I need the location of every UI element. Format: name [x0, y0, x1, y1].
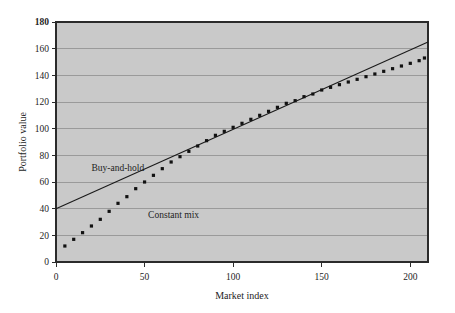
x-axis-tick-label: 150: [315, 272, 330, 282]
data-point-marker: [364, 75, 367, 78]
data-point-marker: [382, 70, 385, 73]
data-point-marker: [72, 238, 75, 241]
x-axis-tick-label: 100: [226, 272, 241, 282]
data-point-marker: [178, 155, 181, 158]
y-axis-tick-label: 140: [35, 71, 50, 81]
data-point-marker: [170, 160, 173, 163]
y-axis-tick-label: 180: [35, 17, 50, 27]
data-point-marker: [134, 187, 137, 190]
y-axis-tick-label: 0: [44, 257, 49, 267]
data-point-marker: [391, 67, 394, 70]
y-axis-tick-label: 120: [35, 97, 50, 107]
y-axis-title: Portfolio value: [17, 112, 28, 172]
data-point-marker: [205, 139, 208, 142]
data-point-marker: [223, 130, 226, 133]
data-point-marker: [347, 80, 350, 83]
data-point-marker: [329, 86, 332, 89]
data-point-marker: [276, 106, 279, 109]
data-point-marker: [90, 224, 93, 227]
data-point-marker: [418, 59, 421, 62]
data-point-marker: [108, 210, 111, 213]
annotation-buy-and-hold: Buy-and-hold: [91, 163, 144, 173]
y-axis-tick-label: 160: [35, 44, 50, 54]
data-point-marker: [125, 195, 128, 198]
x-axis-title: Market index: [215, 290, 269, 301]
data-point-marker: [294, 99, 297, 102]
data-point-marker: [338, 83, 341, 86]
data-point-marker: [409, 62, 412, 65]
data-point-marker: [152, 174, 155, 177]
data-point-marker: [143, 180, 146, 183]
data-point-marker: [400, 64, 403, 67]
data-point-marker: [373, 72, 376, 75]
y-axis-tick-label: 60: [40, 177, 50, 187]
data-point-marker: [81, 231, 84, 234]
data-point-marker: [187, 150, 190, 153]
data-point-marker: [161, 167, 164, 170]
y-axis-tick-label: 40: [40, 204, 50, 214]
data-point-marker: [320, 88, 323, 91]
data-point-marker: [214, 134, 217, 137]
data-point-marker: [423, 56, 426, 59]
data-point-marker: [302, 95, 305, 98]
y-axis-tick-label: 80: [40, 151, 50, 161]
data-point-marker: [196, 144, 199, 147]
annotation-constant-mix: Constant mix: [148, 210, 199, 220]
x-axis-tick-label: 200: [403, 272, 418, 282]
data-point-marker: [232, 126, 235, 129]
y-axis-tick-label: 20: [40, 231, 50, 241]
data-point-marker: [249, 118, 252, 121]
data-point-marker: [356, 78, 359, 81]
y-axis-tick-label: 100: [35, 124, 50, 134]
x-axis-tick-label: 0: [54, 272, 59, 282]
data-point-marker: [63, 244, 66, 247]
data-point-marker: [258, 114, 261, 117]
data-point-marker: [285, 102, 288, 105]
data-point-marker: [240, 122, 243, 125]
data-point-marker: [311, 92, 314, 95]
x-axis-tick-label: 50: [140, 272, 150, 282]
data-point-marker: [99, 218, 102, 221]
data-point-marker: [116, 202, 119, 205]
portfolio-value-vs-market-index-chart: 020406080100120140160180 050100150200 Bu…: [0, 0, 455, 313]
plot-area-background: [56, 22, 428, 262]
chart-figure: 020406080100120140160180 050100150200 Bu…: [0, 0, 455, 313]
data-point-marker: [267, 110, 270, 113]
